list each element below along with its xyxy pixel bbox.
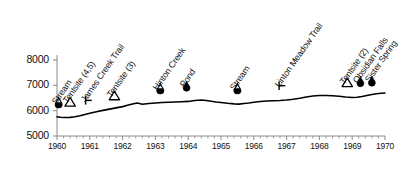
x-tick-label-1965: 1965 xyxy=(204,141,238,151)
y-tick-label-5000: 5000 xyxy=(15,129,49,141)
x-tick-label-1962: 1962 xyxy=(106,141,140,151)
elevation-profile-line xyxy=(57,93,385,118)
x-tick-label-1970: 1970 xyxy=(368,141,402,151)
x-tick-label-1961: 1961 xyxy=(73,141,107,151)
x-tick-label-1960: 1960 xyxy=(40,141,74,151)
x-tick-label-1964: 1964 xyxy=(171,141,205,151)
x-tick-label-1968: 1968 xyxy=(302,141,336,151)
x-tick-label-1967: 1967 xyxy=(270,141,304,151)
y-tick-label-7000: 7000 xyxy=(15,78,49,90)
x-tick-label-1966: 1966 xyxy=(237,141,271,151)
y-tick-label-8000: 8000 xyxy=(15,53,49,65)
x-tick-label-1963: 1963 xyxy=(138,141,172,151)
y-tick-label-6000: 6000 xyxy=(15,104,49,116)
x-tick-label-1969: 1969 xyxy=(335,141,369,151)
